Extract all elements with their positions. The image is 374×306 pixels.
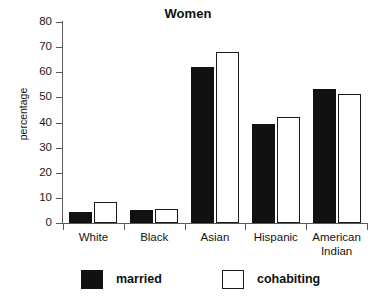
bar-married-american-indian: [313, 89, 336, 223]
y-tick-label: 30: [18, 141, 52, 153]
y-tick-label: 10: [18, 191, 52, 203]
y-tick-label: 70: [18, 40, 52, 52]
bar-married-black: [130, 210, 153, 223]
y-tick-mark: [56, 223, 63, 224]
y-tick-label: 40: [18, 116, 52, 128]
y-tick-label: 20: [18, 166, 52, 178]
y-tick-mark: [56, 97, 63, 98]
x-category-label-line: Indian: [292, 245, 374, 259]
legend-label: married: [116, 272, 162, 286]
x-tick-mark: [124, 224, 125, 230]
bar-married-white: [69, 212, 92, 223]
x-category-label-line: Black: [140, 231, 168, 243]
x-tick-mark: [306, 224, 307, 230]
y-tick-label: 80: [18, 15, 52, 27]
plot-area: [63, 22, 367, 223]
x-tick-mark: [245, 224, 246, 230]
chart-legend: marriedcohabiting: [0, 268, 374, 298]
bar-cohabiting-american-indian: [338, 94, 361, 223]
y-tick-mark: [56, 198, 63, 199]
bar-cohabiting-asian: [216, 52, 239, 223]
bar-cohabiting-black: [155, 209, 178, 223]
x-tick-mark: [367, 224, 368, 230]
bar-cohabiting-white: [94, 202, 117, 223]
y-tick-mark: [56, 173, 63, 174]
chart-title: Women: [118, 6, 258, 21]
bar-married-asian: [191, 67, 214, 223]
y-tick-label: 0: [18, 216, 52, 228]
x-category-label: AmericanIndian: [292, 231, 374, 258]
x-tick-mark: [63, 224, 64, 230]
bar-married-hispanic: [252, 124, 275, 223]
x-category-label-line: White: [79, 231, 108, 243]
bar-chart: Women percentage 01020304050607080 White…: [0, 0, 374, 306]
y-tick-label: 50: [18, 90, 52, 102]
legend-item-cohabiting[interactable]: cohabiting: [222, 268, 320, 290]
x-category-label-line: Asian: [201, 231, 230, 243]
y-tick-mark: [56, 123, 63, 124]
x-axis-line: [62, 223, 368, 224]
x-tick-mark: [185, 224, 186, 230]
hollow-square-icon: [222, 270, 244, 289]
bar-cohabiting-hispanic: [277, 117, 300, 223]
y-tick-mark: [56, 72, 63, 73]
x-category-label-line: American: [312, 231, 361, 243]
y-tick-mark: [56, 47, 63, 48]
legend-item-married[interactable]: married: [81, 268, 162, 290]
y-tick-label: 60: [18, 65, 52, 77]
y-tick-mark: [56, 148, 63, 149]
y-tick-mark: [56, 22, 63, 23]
legend-label: cohabiting: [257, 272, 320, 286]
filled-square-icon: [81, 270, 103, 289]
